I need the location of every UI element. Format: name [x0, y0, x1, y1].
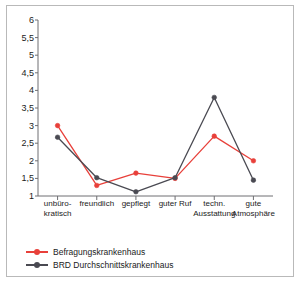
legend-item[interactable]: Befragungskrankenhaus	[26, 245, 266, 258]
chart-figure: 65,554,543,532,521,51 unbüro-kratischfre…	[0, 0, 300, 288]
legend-marker-icon	[26, 260, 48, 269]
data-point	[55, 135, 60, 140]
legend-label: Befragungskrankenhaus	[53, 247, 145, 257]
series-group	[55, 95, 255, 194]
x-tick-label-line: gute	[221, 199, 285, 209]
data-point	[173, 175, 178, 180]
chart-legend: BefragungskrankenhausBRD Durchschnittskr…	[26, 245, 266, 271]
series-line-1	[58, 97, 254, 191]
data-point	[134, 189, 139, 194]
series-line-0	[58, 126, 254, 186]
axes-group	[35, 20, 273, 200]
legend-item[interactable]: BRD Durchschnittskrankenhaus	[26, 258, 266, 271]
data-point	[94, 175, 99, 180]
x-axis-tick-labels: unbüro-kratischfreundlichgepflegtguter R…	[38, 199, 273, 233]
legend-dot	[34, 249, 40, 255]
data-point	[134, 171, 139, 176]
legend-dot	[34, 262, 40, 268]
data-point	[212, 134, 217, 139]
x-tick-label-line: Atmosphäre	[221, 209, 285, 219]
data-point	[212, 95, 217, 100]
data-point	[251, 178, 256, 183]
data-point	[55, 123, 60, 128]
legend-marker-icon	[26, 247, 48, 256]
data-point	[251, 159, 256, 164]
data-point	[94, 183, 99, 188]
x-tick-label-line: kratisch	[26, 209, 90, 219]
x-tick-label: guteAtmosphäre	[221, 199, 285, 219]
legend-label: BRD Durchschnittskrankenhaus	[53, 260, 173, 270]
